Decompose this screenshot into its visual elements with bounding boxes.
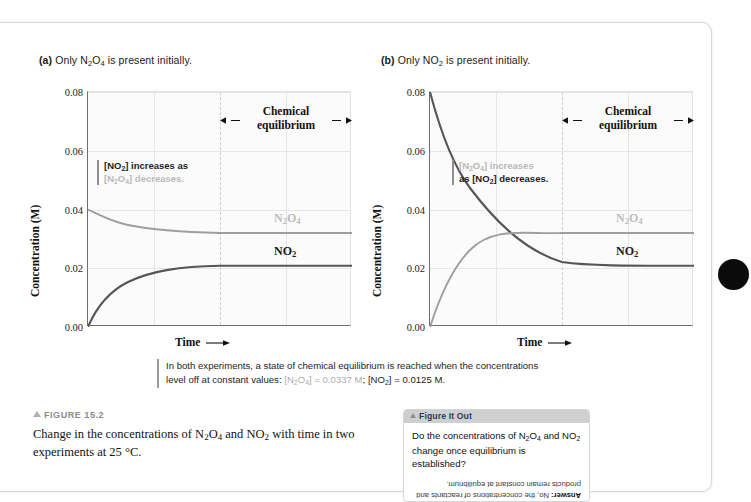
equilibrium-arrows-b	[562, 116, 694, 125]
x-axis-label-b: Time	[517, 336, 572, 348]
triangle-icon	[33, 411, 41, 417]
ytick-a-0: 0.08	[65, 87, 83, 98]
series-label-n2o4-a: N2O4	[274, 211, 301, 226]
ytick-a-2: 0.04	[65, 204, 83, 215]
ytick-a-3: 0.02	[65, 263, 83, 274]
time-arrow-icon	[548, 339, 572, 347]
equilibrium-note: In both experiments, a state of chemical…	[157, 359, 596, 388]
equilibrium-bracket-b: Chemical equilibrium	[562, 104, 694, 132]
callout-b-strong: as [NO2] decreases.	[459, 173, 548, 186]
curve-n2o4-a	[88, 210, 352, 234]
y-axis-label-a: Concentration (M)	[29, 205, 41, 297]
callout-b-faded: [N2O4] increases	[459, 160, 548, 173]
plot-area-b: 0.08 0.06 0.04 0.02 0.00 Chemical equili…	[429, 91, 693, 326]
ytick-b-0: 0.08	[407, 87, 425, 98]
note-line2-dark: [NO2] = 0.0125 M.	[368, 374, 445, 385]
plot-area-a: 0.08 0.06 0.04 0.02 0.00 Chemical equili…	[87, 91, 351, 326]
figure-marker: FIGURE 15.2	[33, 410, 104, 420]
note-line1: In both experiments, a state of chemical…	[166, 360, 538, 371]
textbook-page: (a) Only N2O4 is present initially. 0.08…	[0, 22, 712, 492]
arrow-left-icon	[220, 116, 231, 125]
x-axis-label-a: Time	[175, 336, 230, 348]
chart-panel-b: 0.08 0.06 0.04 0.02 0.00 Chemical equili…	[429, 91, 693, 326]
ytick-b-3: 0.02	[407, 263, 425, 274]
figure-it-out-answer-prefix: Answer:	[551, 491, 581, 500]
panel-a-title: (a) Only N2O4 is present initially.	[39, 54, 192, 68]
equilibrium-line-left-b	[573, 120, 582, 121]
arrow-right-icon	[683, 116, 694, 125]
note-line2-pre: level off at constant values:	[166, 374, 284, 385]
ytick-b-1: 0.06	[407, 145, 425, 156]
ytick-a-1: 0.06	[65, 145, 83, 156]
figure-it-out-question-line1: Do the concentrations of N2O4 and NO2	[412, 430, 580, 441]
figure-it-out-box: Figure It Out Do the concentrations of N…	[403, 409, 590, 502]
y-axis-label-b: Concentration (M)	[371, 205, 383, 297]
x-axis-label-a-text: Time	[175, 336, 200, 348]
panel-a-tag: (a)	[39, 54, 52, 66]
panel-a-title-text: Only N2O4 is present initially.	[55, 54, 192, 66]
ytick-b-4: 0.00	[407, 322, 425, 333]
ytick-a-4: 0.00	[65, 322, 83, 333]
arrow-left-icon	[562, 116, 573, 125]
figure-caption: Change in the concentrations of N2O4 and…	[33, 426, 363, 462]
curve-n2o4-b	[430, 233, 694, 327]
equilibrium-line-right-a	[332, 120, 341, 121]
callout-b: [N2O4] increases as [NO2] decreases.	[452, 160, 548, 185]
ytick-b-2: 0.04	[407, 204, 425, 215]
arrow-right-icon	[341, 116, 352, 125]
series-label-n2o4-b: N2O4	[616, 211, 643, 226]
figure-it-out-question-line2: change once equilibrium is established?	[412, 445, 526, 470]
callout-a-strong: [NO2] increases as	[104, 160, 188, 173]
triangle-small-icon	[410, 413, 416, 418]
x-axis-label-b-text: Time	[517, 336, 542, 348]
callout-a: [NO2] increases as [N2O4] decreases.	[97, 160, 188, 185]
series-label-no2-a: NO2	[274, 244, 296, 259]
panel-b-title: (b) Only NO2 is present initially.	[381, 54, 530, 68]
series-label-no2-b: NO2	[616, 244, 638, 259]
curve-no2-a	[88, 266, 352, 327]
time-arrow-icon	[206, 339, 230, 347]
page-edge-dot	[718, 259, 749, 290]
figure-it-out-answer: Answer: No, the concentrations of reacta…	[404, 473, 589, 501]
chart-panel-a: 0.08 0.06 0.04 0.02 0.00 Chemical equili…	[87, 91, 351, 326]
callout-a-faded: [N2O4] decreases.	[104, 173, 188, 186]
equilibrium-line-left-a	[231, 120, 240, 121]
panel-b-tag: (b)	[381, 54, 395, 66]
equilibrium-bracket-a: Chemical equilibrium	[220, 104, 352, 132]
equilibrium-line-right-b	[674, 120, 683, 121]
figure-it-out-header-label: Figure It Out	[419, 411, 472, 421]
figure-it-out-question: Do the concentrations of N2O4 and NO2 ch…	[404, 423, 589, 473]
figure-marker-label: FIGURE 15.2	[44, 410, 104, 420]
figure-it-out-header: Figure It Out	[404, 410, 589, 423]
panel-b-title-text: Only NO2 is present initially.	[398, 54, 531, 66]
equilibrium-arrows-a	[220, 116, 352, 125]
note-line2-grey: [N2O4] = 0.0337 M	[284, 374, 362, 385]
